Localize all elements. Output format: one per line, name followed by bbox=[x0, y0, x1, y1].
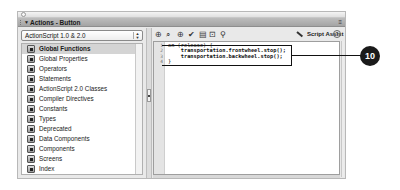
toolbox-scrollbar[interactable] bbox=[135, 44, 142, 174]
book-icon bbox=[27, 165, 35, 173]
book-icon bbox=[27, 145, 35, 153]
debug-options-icon[interactable]: ⚲ bbox=[220, 30, 226, 39]
pane-divider[interactable] bbox=[146, 28, 152, 178]
toolbox-item-data-components[interactable]: Data Components bbox=[22, 134, 136, 144]
book-icon bbox=[27, 105, 35, 113]
book-icon bbox=[27, 135, 35, 143]
item-label: ActionScript 2.0 Classes bbox=[39, 84, 107, 94]
item-label: Statements bbox=[39, 74, 71, 84]
script-toolbar: ⊕ ⌕ ⊕ ✔ ▤ ⊡ ⚲ Script Assist ? bbox=[153, 28, 345, 41]
callout-step-badge: 10 bbox=[360, 46, 380, 66]
toolbox-item-global-properties[interactable]: Global Properties bbox=[22, 54, 136, 64]
item-label: Operators bbox=[39, 64, 67, 74]
book-icon bbox=[27, 65, 35, 73]
toolbox-item-compiler-directives[interactable]: Compiler Directives bbox=[22, 94, 136, 104]
toolbox-item-operators[interactable]: Operators bbox=[22, 64, 136, 74]
item-label: Global Functions bbox=[39, 44, 90, 54]
panel-title: Actions - Button bbox=[30, 18, 81, 27]
show-code-hint-icon[interactable]: ⊡ bbox=[209, 30, 216, 39]
callout-leader-line bbox=[292, 55, 362, 56]
collapse-handle-icon[interactable] bbox=[147, 89, 151, 102]
book-icon bbox=[27, 85, 35, 93]
grip-icon[interactable] bbox=[20, 20, 22, 25]
book-icon bbox=[27, 75, 35, 83]
updown-arrows-icon: ▲▼ bbox=[133, 32, 141, 39]
item-label: Constants bbox=[39, 104, 67, 114]
toolbox-item-types[interactable]: Types bbox=[22, 114, 136, 124]
item-label: Index bbox=[39, 164, 54, 174]
collapse-triangle-icon[interactable]: ▼ bbox=[24, 20, 29, 25]
panel-header[interactable]: ▼ Actions - Button ≡ bbox=[18, 18, 345, 27]
item-label: Types bbox=[39, 114, 56, 124]
toolbox-item-global-functions[interactable]: Global Functions bbox=[22, 44, 136, 54]
book-icon bbox=[27, 155, 35, 163]
item-label: Data Components bbox=[39, 134, 90, 144]
panel-menu-icon[interactable]: ≡ bbox=[338, 19, 342, 26]
book-icon bbox=[27, 125, 35, 133]
toolbox-item-screens[interactable]: Screens bbox=[22, 154, 136, 164]
book-icon bbox=[27, 95, 35, 103]
insert-target-path-icon[interactable]: ⊕ bbox=[177, 30, 184, 39]
toolbox-item-components[interactable]: Components bbox=[22, 144, 136, 154]
toolbox-item-index[interactable]: Index bbox=[22, 164, 136, 174]
actions-panel-window: ▼ Actions - Button ≡ ActionScript 1.0 & … bbox=[17, 11, 346, 179]
actions-toolbox: ActionScript 1.0 & 2.0 ▲▼ Global Functio… bbox=[21, 30, 145, 176]
book-icon bbox=[27, 45, 35, 53]
item-label: Global Properties bbox=[39, 54, 88, 64]
item-label: Screens bbox=[39, 154, 62, 164]
item-label: Components bbox=[39, 144, 75, 154]
check-syntax-icon[interactable]: ✔ bbox=[188, 30, 195, 39]
editor-scrollbar[interactable] bbox=[341, 41, 344, 177]
help-icon[interactable]: ? bbox=[333, 30, 341, 38]
item-label: Compiler Directives bbox=[39, 94, 94, 104]
book-icon bbox=[27, 115, 35, 123]
toolbox-list: Global Functions Global Properties Opera… bbox=[21, 43, 143, 175]
callout-bracket bbox=[162, 45, 292, 66]
item-label: Deprecated bbox=[39, 124, 72, 134]
book-icon bbox=[27, 55, 35, 63]
toolbox-item-deprecated[interactable]: Deprecated bbox=[22, 124, 136, 134]
dropdown-value: ActionScript 1.0 & 2.0 bbox=[25, 31, 86, 41]
close-icon[interactable] bbox=[21, 12, 26, 17]
editor-status-strip bbox=[153, 175, 340, 178]
find-icon[interactable]: ⌕ bbox=[166, 30, 170, 39]
toolbox-item-statements[interactable]: Statements bbox=[22, 74, 136, 84]
add-statement-icon[interactable]: ⊕ bbox=[155, 30, 162, 39]
toolbox-item-constants[interactable]: Constants bbox=[22, 104, 136, 114]
auto-format-icon[interactable]: ▤ bbox=[199, 30, 207, 39]
magic-wand-icon bbox=[296, 31, 303, 37]
actionscript-version-dropdown[interactable]: ActionScript 1.0 & 2.0 ▲▼ bbox=[21, 30, 143, 41]
toolbox-item-as2-classes[interactable]: ActionScript 2.0 Classes bbox=[22, 84, 136, 94]
